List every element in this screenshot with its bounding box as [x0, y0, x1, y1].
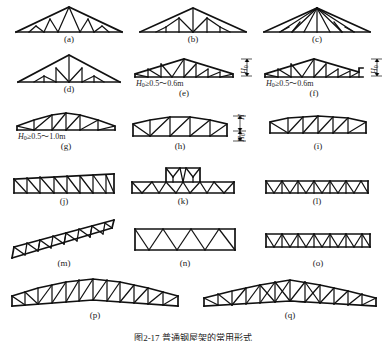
caption-k: (k)	[128, 196, 238, 206]
caption-e: (e)	[132, 88, 236, 98]
dimension-label-h-lower: H0	[237, 133, 246, 142]
caption-l: (l)	[262, 196, 372, 206]
caption-g: (g)	[14, 141, 118, 151]
caption-n: (n)	[130, 258, 240, 268]
truss-diagram-l	[262, 176, 372, 196]
dimension-label-h-upper: H	[237, 114, 246, 120]
truss-diagram-b	[138, 4, 248, 34]
caption-a: (a)	[14, 34, 124, 44]
truss-diagram-o	[262, 230, 374, 250]
caption-d: (d)	[14, 84, 124, 94]
caption-q: (q)	[200, 310, 380, 320]
truss-diagram-h	[130, 112, 230, 138]
figure-title: 图2-17 普通钢屋架的常用形式	[0, 331, 386, 341]
truss-diagram-m	[8, 218, 120, 262]
caption-f: (f)	[262, 88, 366, 98]
truss-diagram-n	[130, 224, 240, 254]
truss-diagram-a	[14, 4, 124, 34]
caption-o: (o)	[262, 258, 374, 268]
annotation-f-height: H0≥0.5～0.6m	[266, 77, 313, 88]
caption-j: (j)	[10, 196, 118, 206]
caption-m: (m)	[8, 258, 120, 268]
truss-diagram-f	[262, 57, 366, 79]
annotation-g-height: H0≥0.5～1.0m	[18, 130, 65, 141]
caption-h: (h)	[130, 141, 230, 151]
truss-diagram-q	[200, 276, 380, 310]
dimension-label-f: H0	[370, 65, 379, 74]
caption-i: (i)	[266, 141, 370, 151]
caption-b: (b)	[138, 34, 248, 44]
truss-diagram-d	[14, 52, 124, 84]
truss-diagram-e	[132, 57, 236, 79]
truss-diagram-g	[14, 110, 118, 132]
truss-diagram-i	[266, 112, 370, 136]
caption-p: (p)	[8, 310, 182, 320]
truss-diagram-k	[128, 162, 238, 196]
truss-diagram-j	[10, 170, 118, 196]
annotation-e-height: H0≥0.5～0.6m	[136, 77, 183, 88]
caption-c: (c)	[262, 34, 372, 44]
truss-diagram-c	[262, 4, 372, 34]
truss-diagram-p	[8, 276, 182, 310]
dimension-label-e: H0	[240, 65, 249, 74]
